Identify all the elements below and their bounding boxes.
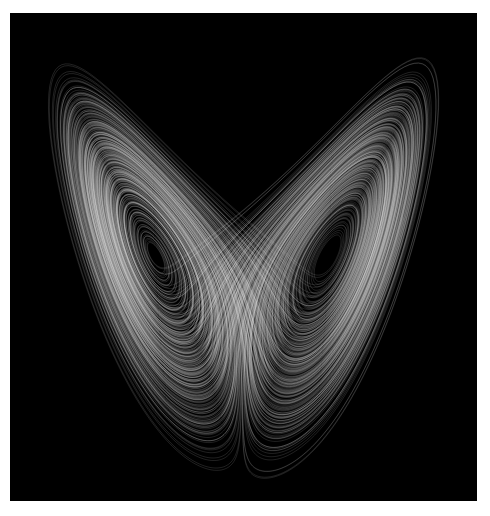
lorenz-attractor-image <box>10 13 477 501</box>
attractor-panel <box>10 13 477 501</box>
